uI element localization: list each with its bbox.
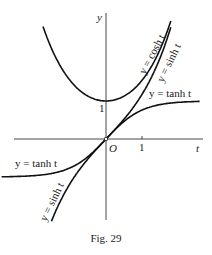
figure-caption: Fig. 29 <box>0 232 212 244</box>
y-tick-label: 1 <box>99 102 105 114</box>
origin-label: O <box>109 142 117 154</box>
sinh-label-lower: y = sinh t <box>37 180 66 222</box>
tanh-label-left: y = tanh t <box>15 157 57 169</box>
y-axis-label: y <box>96 11 102 23</box>
tanh-label-right: y = tanh t <box>149 87 191 99</box>
hyperbolic-functions-figure: y t O 1 1 y = cosh t y = sinh t y = tanh… <box>0 0 212 255</box>
origin-point <box>104 137 108 141</box>
t-tick-label: 1 <box>139 141 145 153</box>
t-axis-label: t <box>196 142 200 154</box>
